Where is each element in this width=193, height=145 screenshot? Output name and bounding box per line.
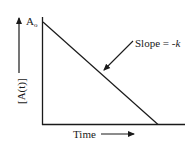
kinetics-diagram: [A(t)] Ao Slope = -k Time <box>0 0 193 145</box>
y-axis-label: [A(t)] <box>15 78 28 104</box>
diagram-svg: [A(t)] Ao Slope = -k Time <box>0 0 193 145</box>
intercept-label: Ao <box>26 15 38 29</box>
x-axis-label: Time <box>73 128 96 140</box>
slope-label: Slope = -k <box>135 37 181 49</box>
slope-pointer-arrow-icon <box>104 41 133 70</box>
